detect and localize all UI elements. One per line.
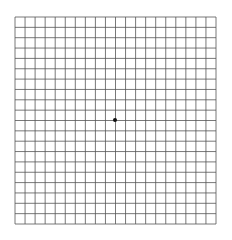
center-fixation-dot (113, 118, 117, 122)
amsler-grid (0, 0, 232, 240)
